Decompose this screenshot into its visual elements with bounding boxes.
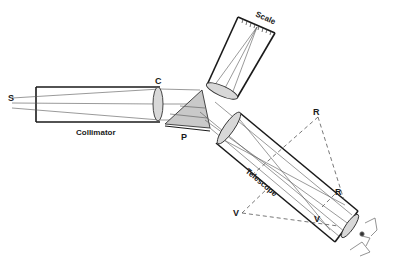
spectroscope-diagram: S C Collimator P Scale Telescope R R V V — [0, 0, 396, 264]
prism — [165, 90, 210, 131]
label-red-image: R — [335, 187, 342, 197]
scale-lens — [204, 80, 239, 103]
label-violet-image: V — [314, 214, 320, 224]
collimator-tube — [36, 87, 160, 122]
label-source: S — [8, 93, 14, 103]
label-red-virtual: R — [313, 107, 320, 117]
telescope-eyepiece-lens — [339, 212, 362, 240]
label-collimator: Collimator — [76, 128, 116, 137]
source-rays — [12, 89, 200, 120]
label-scale: Scale — [254, 10, 277, 27]
telescope-tube — [200, 102, 361, 242]
scale-tube — [204, 17, 275, 102]
label-prism: P — [181, 132, 187, 142]
telescope-objective-lens — [214, 110, 244, 147]
label-violet-virtual: V — [233, 208, 239, 218]
label-collimator-lens: C — [155, 76, 162, 86]
collimator-lens — [153, 87, 163, 121]
diagram-canvas: S C Collimator P Scale Telescope R R V V — [0, 0, 396, 264]
